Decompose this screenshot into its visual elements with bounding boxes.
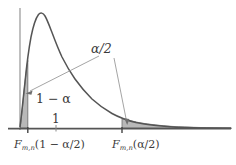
x-tick-one-label: 1 [52,113,60,125]
one-minus-alpha-label: 1 − α [36,93,71,106]
one-minus-alpha-text: 1 − α [36,91,71,106]
left-quantile-argument: (1 − α/2) [35,138,85,151]
right-quantile-symbol: F [112,138,120,151]
left-quantile-symbol: F [14,138,22,151]
f-distribution-figure: α/2 1 − α 1 Fm,n(1 − α/2) Fm,n(α/2) [0,0,236,165]
right-quantile-subscript: m,n [120,144,133,152]
leader-line-right-tail [114,58,127,121]
x-tick-one-text: 1 [52,112,60,126]
alpha-half-label: α/2 [91,43,112,56]
left-quantile-subscript: m,n [22,144,35,152]
density-curve [20,13,231,128]
right-quantile-label: Fm,n(α/2) [112,139,160,152]
left-quantile-label: Fm,n(1 − α/2) [14,139,85,152]
right-quantile-argument: (α/2) [133,138,160,151]
alpha-half-text: α/2 [91,41,112,56]
